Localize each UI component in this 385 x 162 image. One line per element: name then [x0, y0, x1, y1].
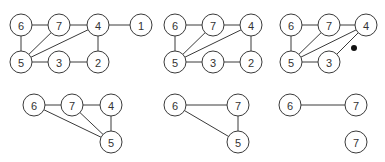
node-5: 5 — [10, 51, 32, 73]
graph-g7: 7 — [345, 131, 367, 153]
node-3: 3 — [202, 51, 224, 73]
node-label: 6 — [172, 100, 178, 112]
graph-g6: 67 — [279, 94, 367, 116]
node-label: 6 — [31, 100, 37, 112]
node-label: 4 — [363, 20, 369, 32]
node-4: 4 — [240, 14, 262, 36]
node-4: 4 — [87, 14, 109, 36]
node-label: 6 — [172, 20, 178, 32]
node-label: 5 — [108, 137, 114, 149]
node-3: 3 — [48, 51, 70, 73]
node-label: 7 — [69, 100, 75, 112]
node-6: 6 — [164, 14, 186, 36]
graph-g5: 675 — [164, 94, 249, 153]
graph-g3: 67453 — [280, 14, 377, 73]
node-label: 3 — [210, 57, 216, 69]
node-label: 5 — [172, 57, 178, 69]
node-label: 5 — [18, 57, 24, 69]
node-2: 2 — [87, 51, 109, 73]
node-6: 6 — [23, 94, 45, 116]
graph-g4: 6745 — [23, 94, 122, 153]
node-label: 7 — [56, 20, 62, 32]
node-6: 6 — [279, 94, 301, 116]
node-label: 4 — [95, 20, 101, 32]
node-5: 5 — [164, 51, 186, 73]
node-6: 6 — [280, 14, 302, 36]
node-6: 6 — [10, 14, 32, 36]
node-label: 3 — [56, 57, 62, 69]
node-4: 4 — [355, 14, 377, 36]
graph-g2: 674532 — [164, 14, 262, 73]
node-label: 4 — [108, 100, 114, 112]
node-label: 7 — [353, 137, 359, 149]
marker-dot — [351, 45, 357, 51]
edges — [21, 25, 141, 62]
node-7: 7 — [227, 94, 249, 116]
node-7: 7 — [345, 94, 367, 116]
node-label: 4 — [248, 20, 254, 32]
node-7: 7 — [345, 131, 367, 153]
node-label: 7 — [235, 100, 241, 112]
graph-diagram-canvas: 6741532674532674536745675677 — [0, 0, 385, 162]
node-label: 7 — [353, 100, 359, 112]
node-label: 6 — [18, 20, 24, 32]
graph-g1: 6741532 — [10, 14, 152, 73]
node-label: 6 — [287, 100, 293, 112]
node-label: 6 — [288, 20, 294, 32]
node-label: 7 — [210, 20, 216, 32]
node-label: 2 — [248, 57, 254, 69]
node-5: 5 — [227, 131, 249, 153]
node-7: 7 — [48, 14, 70, 36]
node-1: 1 — [130, 14, 152, 36]
node-label: 1 — [138, 20, 144, 32]
node-label: 2 — [95, 57, 101, 69]
node-7: 7 — [202, 14, 224, 36]
node-7: 7 — [61, 94, 83, 116]
node-5: 5 — [280, 51, 302, 73]
node-label: 5 — [288, 57, 294, 69]
node-5: 5 — [100, 131, 122, 153]
node-label: 3 — [326, 57, 332, 69]
node-4: 4 — [100, 94, 122, 116]
node-label: 5 — [235, 137, 241, 149]
node-label: 7 — [326, 20, 332, 32]
node-6: 6 — [164, 94, 186, 116]
node-2: 2 — [240, 51, 262, 73]
node-7: 7 — [318, 14, 340, 36]
node-3: 3 — [318, 51, 340, 73]
